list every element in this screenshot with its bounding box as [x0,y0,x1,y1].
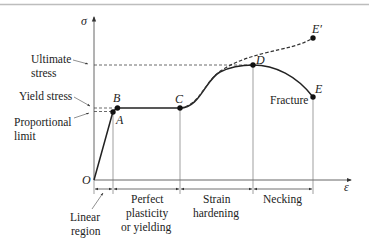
point-a-label: A [115,113,124,127]
ultimate-stress-label-2: stress [31,67,57,79]
point-c-label: C [175,92,184,106]
strain-axis-label: ε [344,180,349,194]
linear-region-label-1: Linear [70,211,100,223]
origin-label: O [82,173,91,187]
stress-axis-label: σ [81,14,88,28]
strain-hardening-label-1: Strain [203,193,231,205]
fracture-label: Fracture [270,94,308,106]
stress-strain-curve [94,65,313,180]
point-c [177,105,182,110]
linear-region-leader [92,193,103,209]
point-d [250,62,255,67]
proportional-limit-label-2: limit [14,130,37,142]
proportional-limit-label-1: Proportional [14,116,72,129]
proportional-leader [74,113,89,118]
perfect-plasticity-label-1: Perfect [131,193,164,205]
point-d-label: D [255,53,265,67]
point-a [110,109,115,114]
point-b [115,105,120,110]
necking-label: Necking [263,193,302,206]
perfect-plasticity-label-3: or yielding [121,221,171,234]
ultimate-leader [73,60,88,64]
linear-region-label-2: region [71,225,101,238]
point-b-label: B [113,91,121,105]
strain-hardening-label-2: hardening [193,207,239,220]
ultimate-stress-label-1: Ultimate [31,53,71,65]
perfect-plasticity-label-2: plasticity [126,207,168,220]
point-e-prime [310,35,315,40]
stress-strain-diagram: σ ε O A B C D E E′ Ultimate stress Yield… [0,0,369,244]
yield-stress-label: Yield stress [19,90,73,102]
point-e-prime-label: E′ [311,22,322,36]
yield-leader [74,97,90,106]
point-e-label: E [314,82,323,96]
